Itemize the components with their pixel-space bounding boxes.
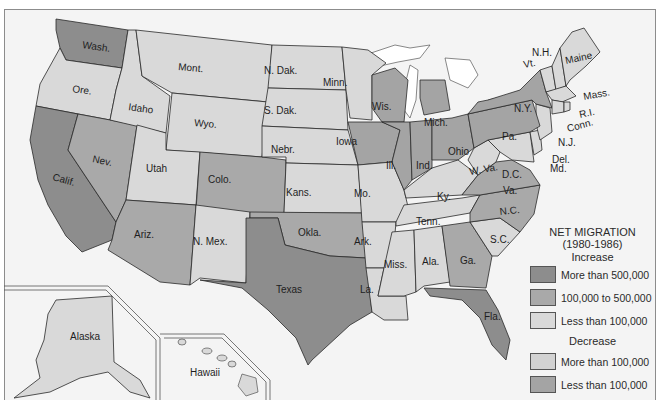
- legend-label: More than 500,000: [561, 269, 649, 281]
- label-wis: Wis.: [372, 101, 391, 112]
- legend-decrease-heading: Decrease: [530, 335, 655, 347]
- label-ill: Ill.: [386, 160, 396, 171]
- legend-period: (1980-1986): [530, 238, 655, 250]
- state-wyoming[interactable]: [166, 93, 268, 157]
- label-mich: Mich.: [424, 117, 448, 128]
- label-nc: N.C.: [499, 204, 520, 217]
- label-dc: D.C.: [502, 169, 522, 180]
- legend-swatch: [530, 353, 556, 370]
- legend-label: Less than 100,000: [561, 379, 647, 391]
- legend-item: More than 100,000: [530, 350, 660, 373]
- legend-increase-heading: Increase: [530, 251, 655, 263]
- label-wyo: Wyo.: [194, 117, 218, 130]
- legend-swatch: [530, 289, 556, 306]
- legend-swatch: [530, 312, 556, 329]
- label-mo: Mo.: [354, 188, 371, 199]
- legend-label: Less than 100,000: [561, 315, 647, 327]
- label-sdak: S. Dak.: [264, 105, 297, 116]
- state-michigan[interactable]: [420, 80, 450, 115]
- state-connecticut[interactable]: [552, 100, 564, 114]
- label-okla: Okla.: [298, 227, 321, 238]
- label-nj: N.J.: [558, 137, 576, 148]
- legend-item: More than 500,000: [530, 263, 660, 286]
- label-la: La.: [360, 284, 374, 295]
- legend-label: More than 100,000: [561, 356, 649, 368]
- label-fla: Fla.: [484, 311, 501, 322]
- label-nebr: Nebr.: [271, 144, 295, 155]
- state-wisconsin[interactable]: [372, 68, 408, 122]
- label-tenn: Tenn.: [416, 216, 440, 227]
- label-hawaii: Hawaii: [190, 367, 220, 378]
- label-nmex: N. Mex.: [193, 236, 227, 247]
- label-ky: Ky.: [437, 191, 451, 202]
- label-utah: Utah: [146, 163, 167, 174]
- legend-item: Less than 100,000: [530, 309, 660, 332]
- label-ga: Ga.: [460, 255, 476, 266]
- label-pa: Pa.: [502, 131, 517, 142]
- state-arizona[interactable]: [108, 200, 196, 285]
- label-mass: Mass.: [582, 87, 610, 102]
- label-vt: Vt.: [522, 57, 536, 70]
- label-nh: N.H.: [532, 47, 552, 58]
- label-miss: Miss.: [384, 259, 407, 270]
- label-ohio: Ohio: [448, 146, 470, 157]
- label-sc: S.C.: [490, 234, 509, 245]
- label-colo: Colo.: [208, 174, 231, 185]
- label-ny: N.Y.: [514, 103, 532, 114]
- state-florida[interactable]: [424, 288, 510, 360]
- legend-item: 100,000 to 500,000: [530, 286, 660, 309]
- label-mont: Mont.: [178, 61, 204, 74]
- label-ariz: Ariz.: [134, 229, 154, 240]
- label-ind: Ind.: [416, 160, 433, 171]
- label-minn: Minn.: [323, 77, 347, 88]
- label-kans: Kans.: [286, 187, 312, 198]
- label-del: Del.: [552, 154, 570, 165]
- label-iowa: Iowa: [336, 136, 358, 147]
- state-alaska[interactable]: [14, 296, 150, 398]
- legend-title: NET MIGRATION: [530, 226, 655, 238]
- state-rhode-island[interactable]: [564, 102, 570, 112]
- legend-label: 100,000 to 500,000: [561, 292, 652, 304]
- legend: NET MIGRATION (1980-1986) Increase More …: [530, 226, 660, 396]
- label-alaska: Alaska: [70, 331, 100, 342]
- legend-item: Less than 100,000: [530, 373, 660, 396]
- legend-swatch: [530, 376, 556, 393]
- label-ark: Ark.: [354, 236, 372, 247]
- legend-swatch: [530, 266, 556, 283]
- label-va: Va.: [503, 185, 517, 196]
- label-ala: Ala.: [422, 256, 439, 267]
- label-ndak: N. Dak.: [264, 65, 297, 76]
- label-ri: R.I.: [578, 106, 596, 120]
- label-texas: Texas: [276, 284, 302, 295]
